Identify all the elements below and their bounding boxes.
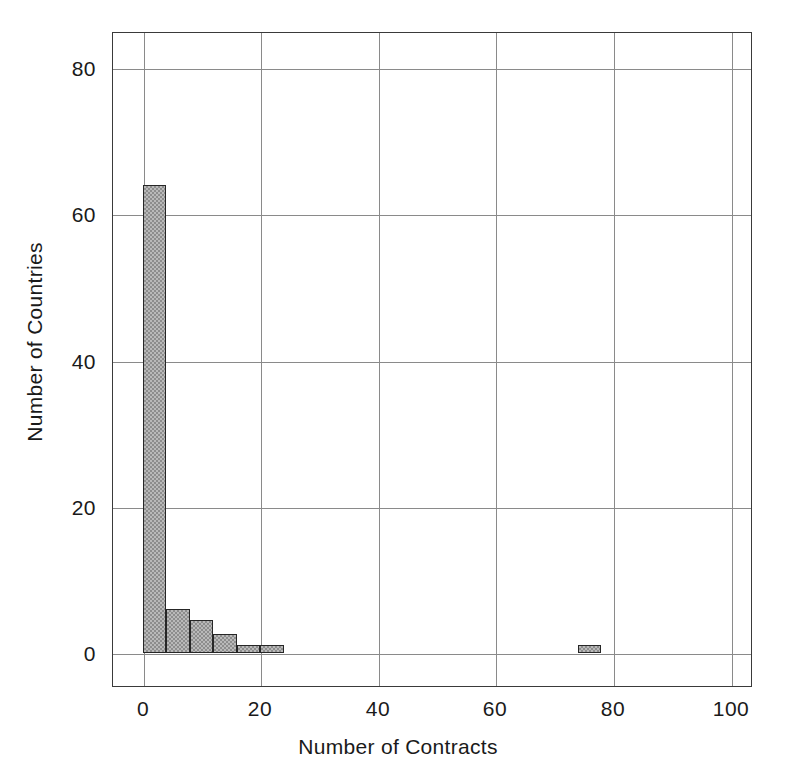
x-tick-label-0: 0 bbox=[137, 697, 149, 721]
x-tick-label-100: 100 bbox=[713, 697, 750, 721]
x-axis-tick-labels: 0 20 40 60 80 100 bbox=[0, 0, 796, 779]
x-tick-label-60: 60 bbox=[483, 697, 507, 721]
x-tick-label-20: 20 bbox=[248, 697, 272, 721]
x-tick-label-40: 40 bbox=[366, 697, 390, 721]
histogram-figure: 80 60 40 20 0 0 20 40 60 80 100 Number o… bbox=[0, 0, 796, 779]
x-axis-title: Number of Contracts bbox=[0, 735, 796, 759]
y-axis-title: Number of Countries bbox=[23, 222, 47, 462]
x-tick-label-80: 80 bbox=[601, 697, 625, 721]
